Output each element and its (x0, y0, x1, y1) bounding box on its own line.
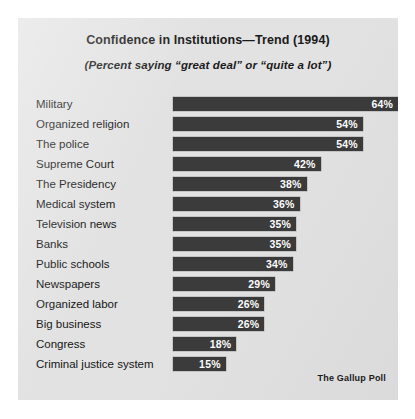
bar-value-label: 36% (273, 197, 295, 211)
bar-value-label: 54% (336, 117, 358, 131)
chart-subtitle: (Percent saying “great deal” or “quite a… (18, 59, 398, 71)
bar-category-label: Public schools (36, 254, 110, 274)
bar-category-label: Criminal justice system (36, 354, 154, 374)
bar-row: Television news35% (18, 214, 398, 234)
bar-track: 26% (173, 297, 390, 311)
chart-panel: Confidence in Institutions—Trend (1994) … (18, 18, 398, 400)
bar-row: Military64% (18, 94, 398, 114)
bar-category-label: Military (36, 94, 72, 114)
bar-value-label: 29% (248, 277, 270, 291)
bar-row: Criminal justice system15% (18, 354, 398, 374)
bar-track: 42% (173, 157, 390, 171)
bar-track: 54% (173, 137, 390, 151)
bar: 54% (173, 137, 363, 151)
bar: 54% (173, 117, 363, 131)
bar-value-label: 64% (371, 97, 393, 111)
bar: 29% (173, 277, 275, 291)
bar-track: 35% (173, 217, 390, 231)
bar: 42% (173, 157, 321, 171)
bar-value-label: 35% (269, 237, 291, 251)
bar-category-label: Big business (36, 314, 101, 334)
bar: 36% (173, 197, 300, 211)
bar: 38% (173, 177, 307, 191)
bar-value-label: 35% (269, 217, 291, 231)
bar-row: Organized religion54% (18, 114, 398, 134)
bar-chart-plot-area: Military64%Organized religion54%The poli… (18, 94, 398, 400)
bar-category-label: Television news (36, 214, 117, 234)
bar-track: 34% (173, 257, 390, 271)
bar-category-label: Banks (36, 234, 68, 254)
bar-track: 54% (173, 117, 390, 131)
bar-value-label: 38% (280, 177, 302, 191)
source-credit: The Gallup Poll (317, 373, 386, 383)
bar: 34% (173, 257, 293, 271)
bar-track: 35% (173, 237, 390, 251)
chart-title: Confidence in Institutions—Trend (1994) (18, 33, 398, 47)
bar-value-label: 42% (294, 157, 316, 171)
bar-category-label: The Presidency (36, 174, 116, 194)
bar: 26% (173, 317, 264, 331)
bar: 35% (173, 217, 296, 231)
bar-row: Public schools34% (18, 254, 398, 274)
bar-row: The police54% (18, 134, 398, 154)
bar-track: 29% (173, 277, 390, 291)
bar-category-label: The police (36, 134, 89, 154)
bar: 15% (173, 357, 226, 371)
bar-track: 26% (173, 317, 390, 331)
bar-category-label: Newspapers (36, 274, 100, 294)
bar-category-label: Supreme Court (36, 154, 114, 174)
bar-row: Congress18% (18, 334, 398, 354)
bar-value-label: 34% (266, 257, 288, 271)
bar: 35% (173, 237, 296, 251)
bar-row: Big business26% (18, 314, 398, 334)
bar-row: Banks35% (18, 234, 398, 254)
bar-category-label: Organized labor (36, 294, 118, 314)
bar-track: 15% (173, 357, 390, 371)
bar-row: Newspapers29% (18, 274, 398, 294)
bar: 26% (173, 297, 264, 311)
bar-track: 38% (173, 177, 390, 191)
bar-track: 36% (173, 197, 390, 211)
bar-value-label: 54% (336, 137, 358, 151)
bar-category-label: Congress (36, 334, 85, 354)
bar: 18% (173, 337, 236, 351)
bar-row: Medical system36% (18, 194, 398, 214)
bar-row: Supreme Court42% (18, 154, 398, 174)
bar-row: Organized labor26% (18, 294, 398, 314)
bar-value-label: 18% (210, 337, 232, 351)
bar-category-label: Organized religion (36, 114, 129, 134)
bar-value-label: 26% (238, 317, 260, 331)
bar-track: 64% (173, 97, 390, 111)
bar-track: 18% (173, 337, 390, 351)
bar-value-label: 15% (199, 357, 221, 371)
bar-value-label: 26% (238, 297, 260, 311)
bar-row: The Presidency38% (18, 174, 398, 194)
bar-category-label: Medical system (36, 194, 115, 214)
bar: 64% (173, 97, 398, 111)
